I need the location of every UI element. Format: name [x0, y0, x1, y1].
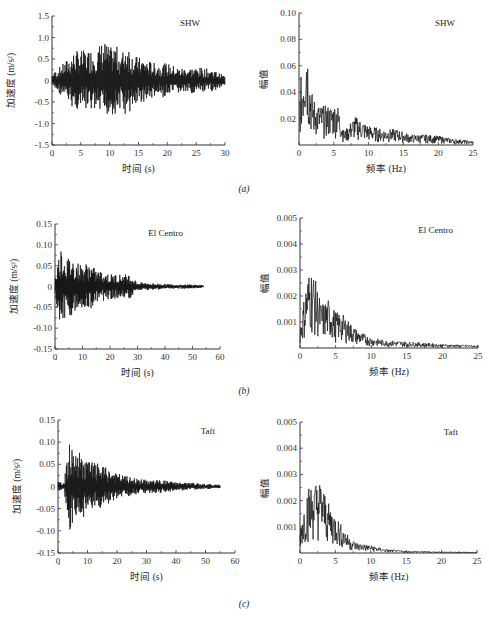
y-tick-label: 0	[45, 76, 50, 86]
y-tick-label: -0.15	[36, 548, 55, 558]
y-tick-label: 0	[51, 482, 56, 492]
y-tick-label: -0.05	[36, 504, 55, 514]
record-name-label: El Centro	[418, 225, 453, 235]
chart-b-time: 01020304050600.150.100.050-0.05-0.10-0.1…	[8, 219, 225, 379]
y-tick-label: 0.5	[38, 54, 50, 64]
y-tick-label: 0.08	[280, 34, 296, 44]
x-tick-label: 10	[78, 352, 88, 362]
x-tick-label: 25	[469, 148, 479, 158]
y-tick-label: 0.15	[36, 219, 52, 229]
y-axis-label: 加速度 (m/s²)	[5, 53, 17, 108]
signal-trace	[300, 278, 478, 348]
chart-c-time: 01020304050600.150.100.050-0.05-0.10-0.1…	[11, 415, 240, 583]
chart-b-freq: 05101520250.0050.0040.0030.0020.001频率 (H…	[259, 213, 483, 378]
chart-c-freq: 05101520250.0050.0040.0030.0020.001频率 (H…	[259, 417, 482, 583]
x-tick-label: 0	[53, 352, 58, 362]
x-tick-label: 0	[50, 148, 55, 158]
x-tick-label: 10	[83, 556, 93, 566]
x-tick-label: 50	[201, 556, 211, 566]
x-tick-label: 5	[332, 148, 337, 158]
panel-caption: (b)	[238, 386, 249, 397]
y-tick-label: 0.003	[277, 265, 298, 275]
y-tick-label: 0.004	[277, 443, 298, 453]
x-tick-label: 5	[333, 556, 338, 566]
y-tick-label: -0.5	[35, 97, 50, 107]
y-tick-label: -0.10	[33, 323, 52, 333]
y-tick-label: 1.5	[38, 11, 50, 21]
x-tick-label: 30	[133, 352, 143, 362]
y-tick-label: 0.05	[39, 459, 55, 469]
signal-trace	[52, 44, 225, 114]
y-tick-label: 0.02	[280, 114, 296, 124]
figure-canvas: 0510152025301.51.00.50-0.5-1.0-1.5时间 (s)…	[0, 0, 489, 620]
x-tick-label: 25	[473, 556, 483, 566]
x-tick-label: 0	[297, 148, 302, 158]
record-name-label: Taft	[444, 427, 459, 437]
x-tick-label: 10	[105, 148, 115, 158]
y-axis-label: 幅值	[258, 69, 269, 89]
record-name-label: SHW	[180, 18, 201, 28]
y-tick-label: 0.001	[277, 317, 297, 327]
x-axis-label: 频率 (Hz)	[369, 366, 409, 378]
y-tick-label: -1.0	[35, 119, 50, 129]
x-tick-label: 20	[434, 148, 444, 158]
signal-trace	[299, 69, 473, 144]
x-tick-label: 0	[298, 351, 303, 361]
y-tick-label: 0.06	[280, 61, 296, 71]
x-tick-label: 20	[438, 351, 448, 361]
record-name-label: El Centro	[148, 228, 183, 238]
y-tick-label: 0.002	[277, 291, 297, 301]
x-tick-label: 30	[221, 148, 231, 158]
y-tick-label: 0	[48, 282, 53, 292]
signal-trace	[300, 485, 477, 553]
y-tick-label: 0.10	[280, 8, 296, 18]
x-tick-label: 15	[402, 556, 412, 566]
y-tick-label: 0.05	[36, 261, 52, 271]
y-tick-label: 0.004	[277, 239, 298, 249]
x-tick-label: 20	[437, 556, 447, 566]
chart-a-freq: 05101520250.100.080.060.040.02频率 (Hz)幅值S…	[258, 8, 478, 175]
y-axis-label: 加速度 (m/s²)	[8, 259, 20, 314]
x-axis-label: 频率 (Hz)	[366, 163, 406, 175]
x-tick-label: 0	[56, 556, 61, 566]
x-tick-label: 40	[172, 556, 182, 566]
y-axis-label: 加速度 (m/s²)	[11, 459, 23, 514]
x-tick-label: 20	[106, 352, 116, 362]
x-axis-label: 时间 (s)	[121, 367, 153, 379]
y-tick-label: -1.5	[35, 140, 50, 150]
x-tick-label: 40	[161, 352, 171, 362]
chart-a-time: 0510152025301.51.00.50-0.5-1.0-1.5时间 (s)…	[5, 11, 230, 175]
signal-trace	[58, 445, 220, 530]
y-tick-label: -0.15	[33, 344, 52, 354]
signal-trace	[55, 252, 204, 320]
panel-caption: (c)	[239, 599, 250, 610]
y-tick-label: -0.05	[33, 302, 52, 312]
x-tick-label: 10	[364, 148, 374, 158]
panel-caption: (a)	[238, 184, 249, 195]
x-tick-label: 15	[134, 148, 144, 158]
x-tick-label: 0	[298, 556, 303, 566]
record-name-label: SHW	[435, 18, 456, 28]
x-tick-label: 25	[474, 351, 484, 361]
x-axis-label: 时间 (s)	[122, 163, 154, 175]
y-tick-label: 0.10	[39, 437, 55, 447]
x-tick-label: 15	[399, 148, 409, 158]
y-tick-label: 0.003	[277, 469, 298, 479]
x-axis-label: 频率 (Hz)	[369, 571, 409, 583]
x-tick-label: 10	[366, 556, 376, 566]
y-tick-label: -0.10	[36, 526, 55, 536]
y-axis-label: 幅值	[259, 273, 270, 293]
y-tick-label: 0.005	[277, 213, 298, 223]
x-tick-label: 25	[192, 148, 202, 158]
x-tick-label: 50	[188, 352, 198, 362]
record-name-label: Taft	[201, 426, 216, 436]
x-tick-label: 30	[142, 556, 152, 566]
y-tick-label: 1.0	[38, 33, 50, 43]
y-tick-label: 0.005	[277, 417, 298, 427]
y-tick-label: 0.10	[36, 240, 52, 250]
x-tick-label: 20	[163, 148, 173, 158]
x-tick-label: 10	[367, 351, 377, 361]
x-tick-label: 60	[216, 352, 226, 362]
y-tick-label: 0.15	[39, 415, 55, 425]
x-axis-label: 时间 (s)	[130, 571, 162, 583]
